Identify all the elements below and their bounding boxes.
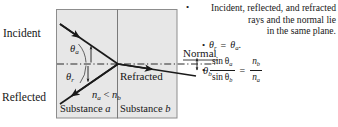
snell-n-a-subscript: a bbox=[257, 75, 260, 82]
substance-a-word: Substance bbox=[60, 103, 103, 114]
theta-a-label: θa bbox=[70, 44, 79, 56]
notes-panel: • Incident, reflected, and refracted ray… bbox=[186, 2, 336, 85]
eq1-trailing-period: . bbox=[239, 39, 242, 50]
snell-right-fraction: nbna bbox=[250, 56, 262, 85]
bullet-icon: • bbox=[202, 65, 209, 77]
theta-r-subscript: r bbox=[71, 76, 74, 84]
substance-a-letter: a bbox=[105, 103, 110, 114]
substance-b-word: Substance bbox=[120, 103, 163, 114]
note-equation-snell: • sin θasin θb=nbna bbox=[186, 56, 336, 85]
snell-sin-theta-a: sin θ bbox=[212, 56, 229, 66]
note-same-plane: • Incident, reflected, and refracted ray… bbox=[186, 2, 336, 37]
snell-sin-theta-b: sin θ bbox=[212, 72, 229, 82]
note-same-plane-text: Incident, reflected, and refracted rays … bbox=[193, 2, 336, 37]
note-equation-reflection: • θr=θa. bbox=[186, 39, 336, 53]
snell-left-denominator: sin θb bbox=[210, 70, 235, 85]
substance-a-label: Substance a bbox=[60, 104, 110, 115]
note-plane-line-2: rays and the normal lie bbox=[248, 14, 336, 25]
note-plane-line-3: in the same plane. bbox=[267, 25, 336, 36]
substance-b-label: Substance b bbox=[120, 104, 170, 115]
bullet-icon: • bbox=[186, 2, 193, 14]
snell-left-fraction: sin θasin θb bbox=[210, 56, 235, 85]
snell-right-numerator: nb bbox=[250, 56, 262, 70]
snell-sin-theta-b-subscript: b bbox=[229, 75, 232, 82]
eq1-theta-r-subscript: r bbox=[214, 44, 217, 51]
index-n-a-subscript: a bbox=[97, 94, 101, 102]
snell-sin-theta-a-subscript: a bbox=[229, 60, 232, 67]
note-plane-line-1: Incident, reflected, and refracted bbox=[211, 2, 336, 13]
eq1-equals-sign: = bbox=[221, 40, 227, 51]
theta-r-label: θr bbox=[66, 72, 74, 84]
refraction-figure: Incident Reflected Refracted Normal θa θ… bbox=[0, 0, 338, 127]
substance-b-letter: b bbox=[165, 103, 170, 114]
snell-n-b-subscript: b bbox=[257, 60, 260, 67]
reflected-ray-label: Reflected bbox=[2, 92, 46, 104]
refractive-index-inequality: na < nb bbox=[92, 90, 121, 102]
theta-a-subscript: a bbox=[75, 48, 79, 56]
snell-left-numerator: sin θa bbox=[210, 56, 235, 70]
refracted-ray-label: Refracted bbox=[120, 71, 163, 82]
equation-theta-r-equals-theta-a: θr=θa. bbox=[209, 39, 336, 53]
incident-ray-label: Incident bbox=[3, 28, 41, 40]
snell-right-denominator: na bbox=[250, 70, 262, 85]
bullet-icon: • bbox=[202, 40, 209, 52]
snell-equals-sign: = bbox=[240, 65, 246, 76]
equation-snells-law: sin θasin θb=nbna bbox=[209, 56, 336, 85]
index-n-b-subscript: b bbox=[117, 94, 121, 102]
less-than-sign: < bbox=[103, 89, 109, 100]
